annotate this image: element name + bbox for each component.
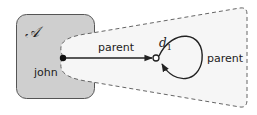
- loop-label: parent: [207, 52, 244, 65]
- edge-label: parent: [98, 41, 135, 54]
- target-node: [153, 55, 159, 61]
- source-node-label: john: [33, 66, 58, 79]
- source-node: [60, 55, 66, 61]
- diagram-canvas: 𝒜 john parent d1 parent: [0, 0, 257, 115]
